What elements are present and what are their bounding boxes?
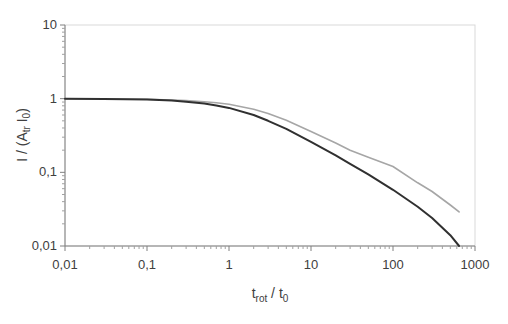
chart-background (0, 0, 508, 324)
x-tick-label: 1000 (461, 257, 490, 272)
y-tick-label: 1 (50, 91, 57, 106)
y-tick-label: 0,01 (32, 238, 57, 253)
x-tick-label: 0,1 (138, 257, 156, 272)
chart: 0,010,1110 0,010,11101001000 trot / t0 I… (0, 0, 508, 324)
x-tick-label: 0,01 (52, 257, 77, 272)
y-tick-label: 10 (43, 17, 57, 32)
x-tick-label: 10 (304, 257, 318, 272)
x-tick-label: 1 (225, 257, 232, 272)
y-tick-label: 0,1 (39, 164, 57, 179)
x-tick-label: 100 (382, 257, 404, 272)
